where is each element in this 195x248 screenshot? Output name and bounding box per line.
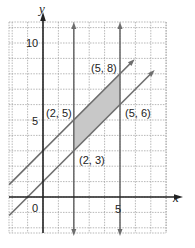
arrow-up-icon [71,22,76,29]
origin-label: 0 [32,202,38,214]
arrow-down-icon [118,229,123,236]
line-y-x-plus-1 [9,74,151,216]
point-label-2-5: (2, 5) [46,107,72,119]
point-label-5-8: (5, 8) [91,62,117,74]
point-label-2-3: (2, 3) [79,154,105,166]
y-tick-10: 10 [26,37,38,49]
x-tick-5: 5 [115,203,121,215]
y-tick-5: 5 [32,115,38,127]
arrow-down-icon [71,229,76,236]
graph: x y 0 5 5 10 (2, 5) (5, 8) (5, 6) (2, 3) [0,0,195,248]
y-axis-label: y [37,1,45,16]
arrow-up-icon [118,22,123,29]
x-axis-label: x [172,190,179,205]
point-label-5-6: (5, 6) [125,107,151,119]
